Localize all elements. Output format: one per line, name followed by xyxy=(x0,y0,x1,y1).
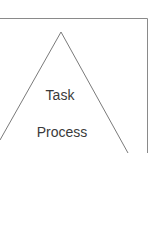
pyramid-level-process: Process xyxy=(26,124,98,140)
pyramid-level-task: Task xyxy=(30,87,90,103)
